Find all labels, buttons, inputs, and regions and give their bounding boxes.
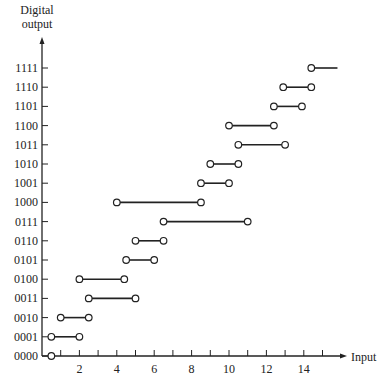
x-axis-arrow-icon xyxy=(340,354,347,359)
open-circle-icon xyxy=(132,238,139,245)
open-circle-icon xyxy=(282,142,289,149)
y-tick-label: 0100 xyxy=(0,272,38,287)
open-circle-icon xyxy=(308,65,315,72)
open-circle-icon xyxy=(308,84,315,91)
open-circle-icon xyxy=(151,257,158,264)
y-tick-label: 1100 xyxy=(0,119,38,134)
open-circle-icon xyxy=(76,276,83,283)
y-axis-title-line1: Digital xyxy=(0,3,74,17)
y-axis-arrow-icon xyxy=(40,37,45,44)
y-tick-label: 0000 xyxy=(0,349,38,364)
open-circle-icon xyxy=(76,334,83,341)
open-circle-icon xyxy=(132,295,139,302)
open-circle-icon xyxy=(235,142,242,149)
open-circle-icon xyxy=(121,276,128,283)
x-tick-label: 4 xyxy=(107,362,127,377)
y-tick-label: 1110 xyxy=(0,80,38,95)
open-circle-icon xyxy=(85,295,92,302)
y-axis-title-line2: output xyxy=(0,17,74,31)
plot-area xyxy=(0,0,391,384)
y-tick-label: 0101 xyxy=(0,253,38,268)
open-circle-icon xyxy=(48,334,55,341)
y-tick-label: 0110 xyxy=(0,234,38,249)
y-tick-label: 0010 xyxy=(0,311,38,326)
adc-transfer-diagram: Digital output 0000000100100011010001010… xyxy=(0,0,391,384)
open-circle-icon xyxy=(235,161,242,168)
open-circle-icon xyxy=(85,314,92,321)
open-circle-icon xyxy=(57,314,64,321)
open-circle-icon xyxy=(198,180,205,187)
y-tick-label: 1010 xyxy=(0,157,38,172)
open-circle-icon xyxy=(48,353,55,360)
x-tick-label: 8 xyxy=(182,362,202,377)
open-circle-icon xyxy=(299,103,306,110)
open-circle-icon xyxy=(123,257,130,264)
x-tick-label: 2 xyxy=(69,362,89,377)
open-circle-icon xyxy=(160,218,167,225)
y-tick-label: 1111 xyxy=(0,61,38,76)
open-circle-icon xyxy=(207,161,214,168)
open-circle-icon xyxy=(244,218,251,225)
y-tick-label: 0111 xyxy=(0,215,38,230)
open-circle-icon xyxy=(160,238,167,245)
y-tick-label: 1001 xyxy=(0,176,38,191)
open-circle-icon xyxy=(198,199,205,206)
x-tick-label: 6 xyxy=(144,362,164,377)
open-circle-icon xyxy=(271,122,278,129)
x-tick-label: 10 xyxy=(219,362,239,377)
x-axis-title: Input xyxy=(351,350,376,365)
open-circle-icon xyxy=(226,122,233,129)
open-circle-icon xyxy=(280,84,287,91)
x-tick-label: 12 xyxy=(256,362,276,377)
y-tick-label: 1011 xyxy=(0,138,38,153)
y-tick-label: 1000 xyxy=(0,195,38,210)
open-circle-icon xyxy=(271,103,278,110)
y-axis-title: Digital output xyxy=(0,3,74,31)
y-tick-label: 0011 xyxy=(0,291,38,306)
open-circle-icon xyxy=(226,180,233,187)
y-tick-label: 1101 xyxy=(0,99,38,114)
open-circle-icon xyxy=(114,199,121,206)
x-tick-label: 14 xyxy=(294,362,314,377)
y-tick-label: 0001 xyxy=(0,330,38,345)
